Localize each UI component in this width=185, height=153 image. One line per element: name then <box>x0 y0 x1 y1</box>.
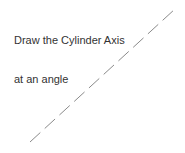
diagram-canvas: Draw the Cylinder Axis at an angle <box>0 0 185 153</box>
cylinder-axis-line <box>0 0 185 153</box>
